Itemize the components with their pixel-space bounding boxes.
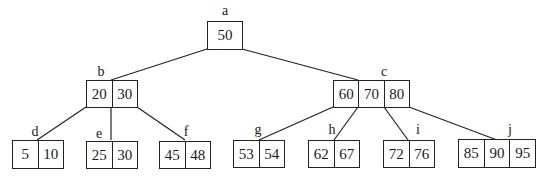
node-b-key-1: 30 [113,81,138,107]
node-c-key-0: 60 [334,81,359,107]
node-f: 45 48 [159,141,211,169]
node-b-key-0: 20 [87,81,113,107]
node-h: 62 67 [308,140,360,168]
node-d-key-1: 10 [39,141,64,168]
node-g-key-0: 53 [234,141,260,167]
node-e-key-0: 25 [87,142,113,168]
node-g-label: g [248,122,268,138]
node-f-key-1: 48 [186,142,211,168]
node-e-key-1: 30 [113,142,138,168]
node-j-key-0: 85 [459,140,485,167]
node-h-key-0: 62 [309,141,335,167]
node-a-label: a [215,3,235,19]
node-g-key-1: 54 [260,141,285,167]
node-e-label: e [89,126,109,142]
node-i-key-0: 72 [384,141,410,167]
node-j-label: j [500,122,520,138]
node-d: 5 10 [12,140,64,169]
edge-a-c [242,49,358,80]
edge-a-b [111,49,207,80]
node-i-label: i [408,122,428,138]
node-b-label: b [91,64,111,80]
node-f-key-0: 45 [160,142,186,168]
node-c-label: c [374,64,394,80]
node-a-key-0: 50 [208,22,242,49]
node-i: 72 76 [383,140,435,168]
node-e: 25 30 [86,141,138,169]
node-d-key-0: 5 [13,141,39,168]
node-c-key-2: 80 [385,81,409,107]
node-i-key-1: 76 [410,141,435,167]
edge-c-i [384,107,408,140]
node-c: 60 70 80 [333,80,410,108]
node-j-key-2: 95 [510,140,535,167]
node-h-key-1: 67 [335,141,360,167]
node-h-label: h [322,122,342,138]
node-j-key-1: 90 [485,140,511,167]
node-b: 20 30 [86,80,138,108]
node-g: 53 54 [233,140,285,168]
node-a: 50 [207,21,243,50]
node-j: 85 90 95 [458,139,536,168]
node-f-label: f [176,124,196,140]
node-c-key-1: 70 [359,81,384,107]
node-d-label: d [25,124,45,140]
